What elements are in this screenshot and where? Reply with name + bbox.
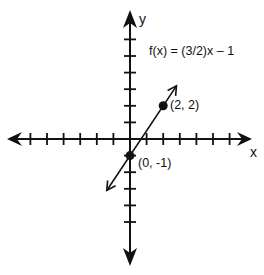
coordinate-plane: [0, 0, 264, 275]
y-axis-label: y: [139, 11, 146, 27]
point-label-0-neg1: (0, -1): [138, 156, 171, 170]
x-axis-label: x: [250, 144, 257, 160]
line-arrow-up-icon: [168, 86, 177, 96]
function-label: f(x) = (3/2)x – 1: [149, 44, 234, 58]
point-0-neg1: [126, 151, 135, 160]
point-2-2: [159, 101, 168, 110]
line-arrow-down-icon: [107, 180, 116, 190]
point-label-2-2: (2, 2): [170, 98, 199, 112]
